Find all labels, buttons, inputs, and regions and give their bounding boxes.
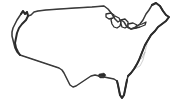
- us-map-figure: [0, 0, 174, 108]
- us-outline-map: [0, 0, 174, 108]
